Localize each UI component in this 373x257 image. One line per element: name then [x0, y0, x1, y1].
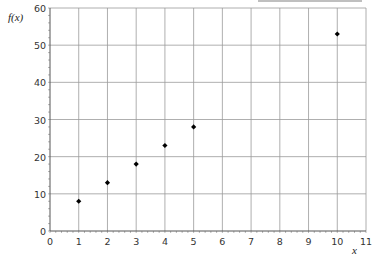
y-tick-label: 60 — [34, 3, 46, 14]
x-tick-label: 0 — [47, 236, 53, 247]
x-tick-label: 8 — [277, 236, 283, 247]
x-tick-label: 5 — [191, 236, 197, 247]
x-tick-label: 7 — [248, 236, 254, 247]
x-axis-label: x — [351, 244, 357, 256]
x-tick-label: 10 — [331, 236, 343, 247]
scatter-chart: 012345678910110102030405060f(x)x — [0, 0, 373, 257]
data-point-diamond — [105, 180, 110, 185]
x-tick-label: 6 — [219, 236, 225, 247]
data-point-diamond — [134, 162, 139, 167]
y-tick-label: 20 — [34, 152, 46, 163]
data-point-diamond — [191, 124, 196, 129]
x-tick-label: 11 — [360, 236, 372, 247]
data-point-diamond — [76, 199, 81, 204]
y-tick-label: 40 — [34, 77, 46, 88]
y-tick-label: 30 — [34, 115, 46, 126]
y-axis-label: f(x) — [8, 11, 24, 24]
y-tick-label: 50 — [34, 40, 46, 51]
x-tick-label: 1 — [76, 236, 82, 247]
x-tick-label: 9 — [306, 236, 312, 247]
y-tick-label: 10 — [34, 189, 46, 200]
x-tick-label: 4 — [162, 236, 168, 247]
data-point-diamond — [335, 31, 340, 36]
x-tick-label: 2 — [104, 236, 110, 247]
x-tick-label: 3 — [133, 236, 139, 247]
data-point-diamond — [162, 143, 167, 148]
y-tick-label: 0 — [40, 226, 46, 237]
